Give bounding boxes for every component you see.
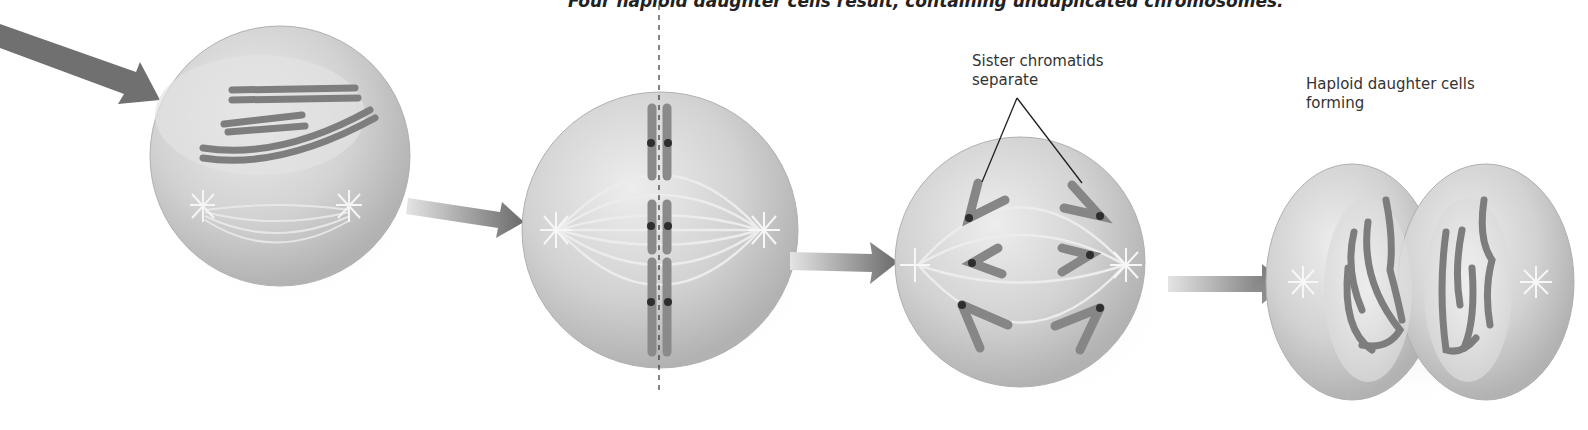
label-haploid-daughter-cells: Haploid daughter cells forming	[1306, 75, 1475, 113]
cell-prophase-ii	[145, 26, 425, 310]
label-line: Sister chromatids	[972, 52, 1104, 71]
label-line: Haploid daughter cells	[1306, 75, 1475, 94]
label-sister-chromatids: Sister chromatids separate	[972, 52, 1104, 90]
meiosis-ii-diagram	[0, 0, 1588, 430]
label-line: separate	[972, 71, 1104, 90]
label-line: forming	[1306, 94, 1475, 113]
cell-telophase-ii	[1240, 164, 1580, 410]
cell-metaphase-ii	[520, 5, 820, 395]
incoming-arrow-icon	[0, 24, 160, 104]
arrow-1-icon	[406, 198, 524, 238]
cell-anaphase-ii	[885, 98, 1175, 410]
